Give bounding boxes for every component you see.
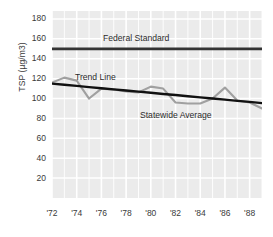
x-axis-tick-label: '76 [96,208,107,218]
x-axis-tick-label: '82 [170,208,181,218]
y-axis-tick-label: 160 [22,34,46,43]
y-axis-tick-label: 140 [22,54,46,63]
y-axis-tick-label: 100 [22,94,46,103]
y-axis-tick-labels: 20406080100120140160180 [22,0,46,237]
x-axis-tick-label: '88 [244,208,255,218]
y-axis-tick-label: 20 [22,174,46,183]
y-axis-tick-label: 80 [22,114,46,123]
y-axis-tick-label: 180 [22,14,46,23]
x-axis-tick-label: '78 [121,208,132,218]
x-axis-tick-label: '72 [46,208,57,218]
annotation-trend-line: Trend Line [75,72,116,82]
annotation-federal-standard: Federal Standard [103,33,169,43]
x-axis-tick-label: '86 [219,208,230,218]
y-axis-tick-label: 120 [22,74,46,83]
y-axis-tick-label: 60 [22,134,46,143]
x-axis-tick-label: '74 [71,208,82,218]
x-axis-tick-label: '84 [195,208,206,218]
annotation-statewide-average: Statewide Average [140,110,212,120]
y-axis-tick-label: 40 [22,154,46,163]
tsp-trend-chart: TSP (µg/m3) 20406080100120140160180 '72'… [0,0,273,237]
x-axis-tick-label: '80 [145,208,156,218]
